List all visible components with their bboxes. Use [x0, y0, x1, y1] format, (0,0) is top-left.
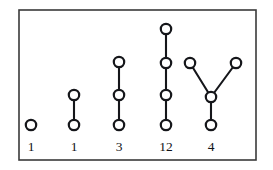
tree-node: [206, 120, 216, 130]
tree-node: [161, 24, 171, 34]
tree-count-label: 12: [159, 139, 173, 154]
tree-count-label: 1: [28, 139, 35, 154]
tree-node: [114, 120, 124, 130]
tree-node: [185, 58, 195, 68]
tree-node: [231, 58, 241, 68]
tree-node: [161, 58, 171, 68]
tree-count-label: 4: [208, 139, 215, 154]
tree-node: [26, 120, 36, 130]
tree-node: [114, 90, 124, 100]
tree-node: [69, 120, 79, 130]
tree-node: [206, 92, 216, 102]
tree-diagram-figure: 113124: [0, 0, 273, 170]
tree-node: [69, 90, 79, 100]
tree-node: [161, 120, 171, 130]
tree-node: [114, 57, 124, 67]
tree-count-label: 3: [116, 139, 123, 154]
tree-count-label: 1: [71, 139, 78, 154]
diagram-canvas: 113124: [0, 0, 273, 170]
tree-node: [161, 90, 171, 100]
